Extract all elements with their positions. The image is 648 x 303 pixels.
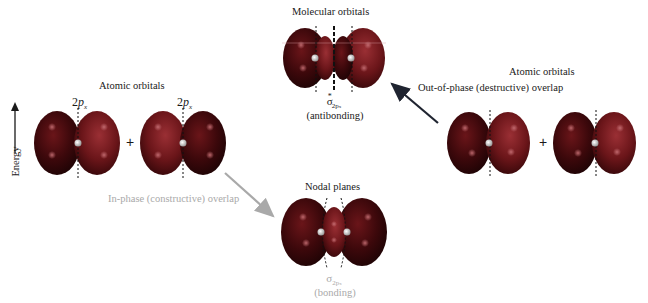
molecular-orbitals-title: Molecular orbitals bbox=[292, 6, 369, 17]
right-plus-operator: + bbox=[539, 134, 547, 150]
atomic-orbital-right-1 bbox=[447, 110, 530, 176]
energy-axis-label: Energy bbox=[10, 141, 21, 183]
right-atomic-orbitals-title: Atomic orbitals bbox=[509, 66, 575, 77]
orbital-subsubscript: x bbox=[339, 281, 342, 286]
nodal-planes-title: Nodal planes bbox=[305, 181, 360, 192]
atomic-orbital-left-2 bbox=[140, 108, 226, 178]
antibonding-orbital bbox=[282, 26, 386, 92]
star-superscript: * bbox=[328, 92, 332, 101]
antibonding-caption: (antibonding) bbox=[300, 110, 370, 121]
antibonding-symbol: σ*2px bbox=[314, 92, 354, 110]
bonding-symbol: σ2px bbox=[314, 272, 354, 287]
bonding-caption: (bonding) bbox=[300, 287, 370, 298]
left-atomic-orbitals-title: Atomic orbitals bbox=[99, 80, 165, 91]
orbital-subscript: 2p bbox=[332, 102, 339, 110]
orbital-subscript: x bbox=[84, 103, 87, 111]
left-plus-operator: + bbox=[126, 134, 134, 150]
bonding-orbital bbox=[281, 198, 387, 268]
out-of-phase-label: Out-of-phase (destructive) overlap bbox=[418, 82, 563, 93]
left-orbital-1-label: 2px bbox=[72, 95, 87, 111]
atomic-orbital-right-2 bbox=[553, 110, 636, 176]
orbital-subsubscript: x bbox=[339, 104, 342, 109]
atomic-orbital-left-1 bbox=[34, 108, 120, 178]
left-orbital-2-label: 2px bbox=[177, 95, 192, 111]
in-phase-label: In-phase (constructive) overlap bbox=[108, 193, 239, 204]
orbital-subscript: x bbox=[189, 103, 192, 111]
diagram-canvas bbox=[0, 0, 648, 303]
